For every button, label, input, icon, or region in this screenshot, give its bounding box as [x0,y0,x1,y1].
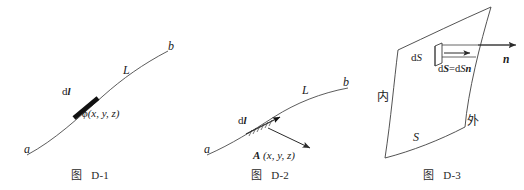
caption-d3-id: D-3 [443,169,461,181]
caption-d1-id: D-1 [91,169,109,181]
label-point-a: a [24,143,30,155]
label-outside: 外 [467,115,479,127]
caption-d1-prefix: 图 [71,169,82,182]
caption-d3: 图D-3 [360,166,524,182]
label-curve-L: L [123,64,130,76]
curve-L-path [207,88,348,155]
label-dl: dl [238,115,247,126]
vector-A-arrow [268,128,310,148]
label-point-a: a [204,143,210,155]
figure-d3: dS dS=dSn n 内 外 S 图D-3 [360,0,524,190]
figure-d1: a b L dl ϕ(x, y, z) 图D-1 [0,0,180,190]
label-normal-n: n [503,54,509,66]
label-dS-vector-equation: dS=dSn [438,64,471,75]
label-inside: 内 [377,91,389,103]
label-point-b: b [343,76,349,88]
caption-d2: 图D-2 [180,166,360,182]
label-point-b: b [168,40,174,52]
curve-L-path [27,51,168,155]
figure-d2-drawing [180,0,360,190]
caption-d1: 图D-1 [0,166,180,182]
caption-d3-prefix: 图 [423,169,434,182]
caption-d2-prefix: 图 [251,169,262,182]
figure-d2: a b L dl A (x, y, z) 图D-2 [180,0,360,190]
label-curve-L: L [302,84,309,96]
label-field-phi: ϕ(x, y, z) [82,108,119,119]
caption-d2-id: D-2 [271,169,289,181]
label-vector-A: A (x, y, z) [253,150,295,161]
label-dl: dl [62,86,71,97]
figure-sheet: a b L dl ϕ(x, y, z) 图D-1 [0,0,524,190]
surface-S-outline [385,7,491,158]
label-surface-S: S [413,131,419,143]
label-dS-scalar: dS [411,52,422,63]
figure-d1-drawing [0,0,180,190]
